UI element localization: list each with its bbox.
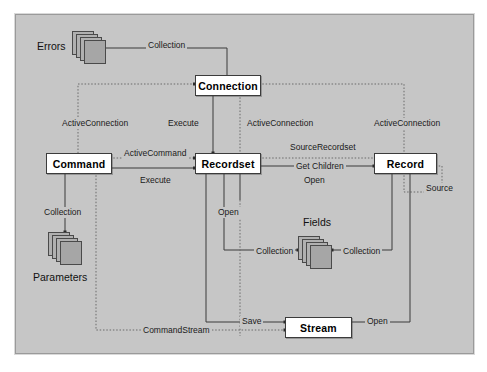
edge-label-stream-save: Save xyxy=(240,316,263,327)
collection-stack-errors-icon[interactable] xyxy=(72,31,106,65)
object-box-command[interactable]: Command xyxy=(46,153,112,174)
edge-label-commandstream: CommandStream xyxy=(141,325,212,336)
diagram-frame xyxy=(15,14,474,354)
collection-label-parameters: Parameters xyxy=(33,272,87,283)
object-box-recordset[interactable]: Recordset xyxy=(195,153,261,174)
stack-sheet xyxy=(84,40,106,64)
collection-stack-parameters-icon[interactable] xyxy=(48,232,82,266)
edge-label-recordset-open: Open xyxy=(216,207,241,218)
object-label-connection: Connection xyxy=(198,80,258,92)
edge-label-recordset-activeconnection: ActiveConnection xyxy=(245,118,315,129)
stack-sheet xyxy=(310,245,332,269)
edge-label-stream-open: Open xyxy=(365,316,390,327)
edge-label-fields-collection-left: Collection xyxy=(254,246,295,257)
object-box-stream[interactable]: Stream xyxy=(285,317,352,338)
diagram-canvas: .solid { stroke:#3b3b3b; stroke-width:1;… xyxy=(0,0,487,372)
edge-label-record-activeconnection: ActiveConnection xyxy=(372,118,442,129)
object-box-connection[interactable]: Connection xyxy=(195,75,261,96)
object-label-recordset: Recordset xyxy=(201,158,254,170)
object-label-stream: Stream xyxy=(300,322,337,334)
collection-label-fields: Fields xyxy=(303,217,331,228)
edge-label-record-open: Open xyxy=(302,175,327,186)
object-box-record[interactable]: Record xyxy=(374,153,437,174)
edge-label-sourcerecordset: SourceRecordset xyxy=(288,142,358,153)
collection-stack-fields-icon[interactable] xyxy=(298,236,332,270)
edge-label-parameters-collection: Collection xyxy=(42,207,83,218)
edge-label-command-activeconnection: ActiveConnection xyxy=(60,118,130,129)
edge-label-errors-collection: Collection xyxy=(146,40,187,51)
edge-label-get-children: Get Children xyxy=(294,161,346,172)
edge-label-fields-collection-right: Collection xyxy=(341,246,382,257)
object-label-command: Command xyxy=(53,158,106,170)
edge-label-activecommand: ActiveCommand xyxy=(122,148,188,159)
collection-label-errors: Errors xyxy=(37,41,66,52)
object-label-record: Record xyxy=(387,158,424,170)
edge-label-command-execute: Execute xyxy=(138,175,173,186)
edge-label-connection-recordset-execute: Execute xyxy=(166,118,201,129)
stack-sheet xyxy=(60,241,82,265)
edge-label-record-source: Source xyxy=(424,183,455,194)
